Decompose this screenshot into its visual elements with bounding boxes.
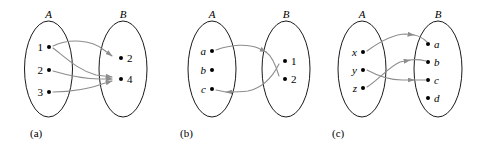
panel-c-left-set-label: A xyxy=(358,8,366,20)
panel-c-left-node-dot xyxy=(361,68,365,72)
panel-a-arrow-3-to-4 xyxy=(53,81,112,92)
panel-c: A B x y z a b c d (c) xyxy=(332,8,462,140)
panel-b-right-set-oval xyxy=(262,21,310,117)
panel-b: A B a b c 1 2 (b) xyxy=(180,8,310,140)
panel-a-right-node-label-2: 2 xyxy=(127,52,133,64)
panel-c-right-node-dot xyxy=(426,60,430,64)
panel-b-left-set-label: A xyxy=(208,8,216,20)
panel-a-right-node-label-4: 4 xyxy=(127,73,133,85)
panel-a-arrow-1-to-4 xyxy=(53,48,112,77)
panel-b-left-node-label-a: a xyxy=(201,45,207,57)
panel-c-right-set-label: B xyxy=(435,8,442,20)
panel-c-right-node-dot xyxy=(426,42,430,46)
panel-b-right-node-dot xyxy=(283,59,287,63)
panel-a-right-set-label: B xyxy=(120,8,127,20)
panel-b-left-node-dot xyxy=(210,87,214,91)
panel-b-arrow-a-to-2-tail xyxy=(266,52,279,76)
panel-a-left-node-label-3: 3 xyxy=(38,86,44,98)
panel-c-left-node-label-x: x xyxy=(351,46,357,58)
panel-a-left-node-dot xyxy=(47,90,51,94)
panel-a-left-node-dot xyxy=(47,45,51,49)
panel-c-right-node-label-c: c xyxy=(434,74,439,86)
panel-b-arrow-a-to-2 xyxy=(216,45,266,52)
panel-a-left-node-dot xyxy=(47,68,51,72)
panel-a-caption: (a) xyxy=(30,127,43,140)
panel-b-left-node-label-b: b xyxy=(201,64,207,76)
panel-a-left-set-label: A xyxy=(44,8,52,20)
panel-c-right-node-label-a: a xyxy=(434,38,440,50)
panel-c-left-node-label-z: z xyxy=(352,82,358,94)
panel-a-left-node-label-1: 1 xyxy=(38,41,44,53)
panel-c-right-node-label-b: b xyxy=(434,56,440,68)
panel-b-right-node-dot xyxy=(283,77,287,81)
panel-a-left-node-label-2: 2 xyxy=(38,64,44,76)
panel-a: A B 1 2 3 2 4 (a) xyxy=(25,8,148,140)
panel-a-right-node-dot xyxy=(119,56,123,60)
panel-b-right-node-label-2: 2 xyxy=(291,73,297,85)
panel-c-left-node-label-y: y xyxy=(351,64,357,76)
panel-a-right-node-dot xyxy=(119,77,123,81)
panel-c-caption: (c) xyxy=(332,127,345,140)
panel-c-left-node-dot xyxy=(361,86,365,90)
panel-b-left-node-label-c: c xyxy=(201,83,206,95)
panel-b-left-node-dot xyxy=(210,68,214,72)
panel-c-right-node-dot xyxy=(426,96,430,100)
panel-c-arrow-y-to-c xyxy=(367,70,414,80)
panel-b-caption: (b) xyxy=(180,127,193,140)
panel-c-left-node-dot xyxy=(361,50,365,54)
panel-b-right-set-label: B xyxy=(283,8,290,20)
panel-c-arrow-z-to-b-tail xyxy=(410,60,426,61)
panel-a-arrow-2-to-4 xyxy=(53,71,112,79)
panel-a-right-set-oval xyxy=(99,21,147,117)
panel-b-arrow-c-to-1-tail xyxy=(216,90,226,92)
panel-c-right-node-dot xyxy=(426,78,430,82)
panel-c-arrow-x-to-a xyxy=(367,34,414,51)
panel-b-right-node-label-1: 1 xyxy=(291,55,297,67)
panel-a-arrow-1-to-2 xyxy=(53,41,112,56)
relation-arrow-diagram-figure: A B 1 2 3 2 4 (a) A B a b c xyxy=(0,0,480,150)
panel-b-left-node-dot xyxy=(210,49,214,53)
panel-c-right-node-label-d: d xyxy=(434,92,440,104)
